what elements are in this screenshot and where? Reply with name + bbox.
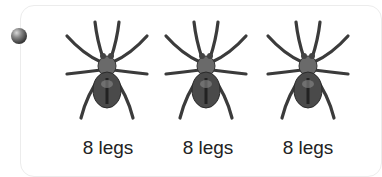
spider-icon	[61, 14, 153, 126]
leg-count-label: 8 legs	[158, 137, 258, 159]
sphere-bullet-icon	[11, 28, 27, 44]
leg-count-label: 8 legs	[58, 137, 158, 159]
leg-count-label: 8 legs	[258, 137, 358, 159]
spider-icon	[262, 14, 354, 126]
spider-icon	[160, 14, 252, 126]
